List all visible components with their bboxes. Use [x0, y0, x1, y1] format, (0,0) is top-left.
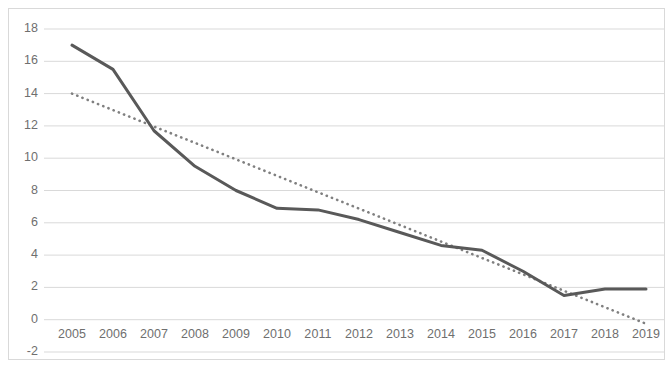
x-axis-tick-label: 2009	[215, 327, 257, 341]
x-axis-tick-label: 2019	[625, 327, 667, 341]
x-axis-tick-label: 2006	[92, 327, 134, 341]
trendline-series	[72, 94, 646, 324]
x-axis-tick-label: 2013	[379, 327, 421, 341]
x-axis-tick-label: 2014	[420, 327, 462, 341]
y-axis-tick-label: 14	[4, 86, 38, 100]
y-axis-tick-label: 2	[4, 279, 38, 293]
data-series-line	[72, 45, 646, 295]
chart-plot-area	[0, 0, 672, 367]
x-axis-tick-label: 2007	[133, 327, 175, 341]
y-axis-tick-label: 0	[4, 312, 38, 326]
y-axis-tick-label: 18	[4, 21, 38, 35]
x-axis-tick-label: 2016	[502, 327, 544, 341]
x-axis-tick-label: 2011	[297, 327, 339, 341]
y-axis-tick-label: 16	[4, 53, 38, 67]
x-axis-tick-label: 2008	[174, 327, 216, 341]
y-axis-tick-label: 10	[4, 150, 38, 164]
y-axis-tick-label: 6	[4, 215, 38, 229]
y-axis-tick-label: -2	[4, 344, 38, 358]
y-axis-tick-label: 8	[4, 183, 38, 197]
y-axis-tick-label: 4	[4, 247, 38, 261]
x-axis-tick-label: 2017	[543, 327, 585, 341]
chart-container: 181614121086420-2 2005200620072008200920…	[0, 0, 672, 367]
x-axis-tick-label: 2015	[461, 327, 503, 341]
x-axis-tick-label: 2005	[51, 327, 93, 341]
x-axis-tick-label: 2018	[584, 327, 626, 341]
x-axis-tick-label: 2010	[256, 327, 298, 341]
y-axis-tick-label: 12	[4, 118, 38, 132]
x-axis-tick-label: 2012	[338, 327, 380, 341]
gridlines	[44, 29, 664, 352]
